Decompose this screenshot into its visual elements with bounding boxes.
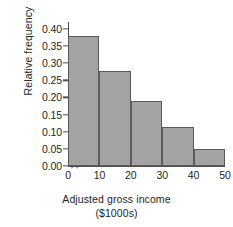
- x-tick-label: 10: [84, 169, 114, 181]
- x-tick-label: 30: [147, 169, 177, 181]
- x-axis-title: Adjusted gross income ($1000s): [0, 193, 233, 220]
- y-tick-label: 0.15: [18, 109, 62, 121]
- y-tick-label: 0.05: [18, 143, 62, 155]
- histogram-bar: [68, 36, 99, 166]
- histogram-bar: [162, 127, 193, 166]
- histogram-bar: [99, 71, 130, 166]
- histogram-bar: [131, 101, 162, 166]
- plot-area: [68, 22, 225, 166]
- x-tick-label: 40: [179, 169, 209, 181]
- relative-frequency-histogram: Relative frequency 0.000.050.100.150.200…: [0, 0, 233, 227]
- x-axis-title-line1: Adjusted gross income: [62, 193, 170, 205]
- x-tick-label: 20: [116, 169, 146, 181]
- x-axis-title-line2: ($1000s): [0, 207, 233, 221]
- histogram-bar: [194, 149, 225, 166]
- y-tick-label: 0.25: [18, 74, 62, 86]
- y-tick-label: 0.30: [18, 57, 62, 69]
- x-tick-label: 50: [210, 169, 233, 181]
- y-tick-label: 0.10: [18, 126, 62, 138]
- y-tick-label: 0.20: [18, 91, 62, 103]
- x-tick-label: 0: [53, 169, 83, 181]
- y-tick-label: 0.40: [18, 23, 62, 35]
- y-tick-label: 0.35: [18, 40, 62, 52]
